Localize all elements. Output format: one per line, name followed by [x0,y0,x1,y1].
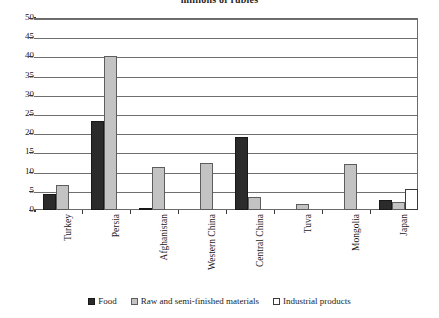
bar-group [178,18,226,210]
y-tick-mark [29,210,33,211]
bars-layer [34,18,418,210]
x-axis-labels: TurkeyPersiaAfghanistanWestern ChinaCent… [34,214,418,288]
y-axis: 50454035302520151050 [0,18,34,210]
x-axis-label-western-china: Western China [207,214,217,270]
bar-group [130,18,178,210]
bar-raw [152,167,165,210]
bar-industrial [405,189,418,210]
legend-item: Industrial products [273,296,351,307]
bar-raw [344,164,357,210]
legend: FoodRaw and semi-finished materialsIndus… [0,296,439,307]
x-axis-label-central-china: Central China [255,214,265,267]
y-tick-mark [29,133,33,134]
bar-food [235,137,248,210]
bar-raw [56,185,69,210]
y-tick-mark [29,114,33,115]
legend-label: Raw and semi-finished materials [141,296,259,307]
bar-group [370,18,418,210]
legend-swatch-raw [131,298,138,305]
bar-raw [392,202,405,210]
x-axis-label-tuva: Tuva [303,214,313,233]
y-tick-mark [29,95,33,96]
bar-chart: millions of rubles 50454035302520151050 … [0,0,439,318]
legend-swatch-industrial [273,298,280,305]
x-axis-label-turkey: Turkey [63,214,73,241]
bar-food [43,194,56,210]
legend-item: Food [88,296,117,307]
bar-group [274,18,322,210]
y-tick-mark [29,18,33,19]
bar-group [322,18,370,210]
y-tick-mark [29,152,33,153]
chart-title: millions of rubles [0,0,439,5]
bar-group [82,18,130,210]
legend-label: Food [98,296,117,307]
bar-raw [104,56,117,210]
bar-group [34,18,82,210]
x-axis-label-persia: Persia [111,214,121,237]
bar-raw [248,197,261,210]
bar-food [91,121,104,210]
legend-label: Industrial products [283,296,351,307]
y-tick-mark [29,56,33,57]
y-tick-mark [29,37,33,38]
x-axis-label-mongolia: Mongolia [351,214,361,251]
y-tick-mark [29,76,33,77]
legend-swatch-food [88,298,95,305]
bar-group [226,18,274,210]
bar-food [379,200,392,210]
x-axis-label-japan: Japan [399,214,409,236]
y-tick-mark [29,172,33,173]
x-axis-label-afghanistan: Afghanistan [159,214,169,260]
legend-item: Raw and semi-finished materials [131,296,259,307]
y-tick-mark [29,191,33,192]
bar-raw [200,163,213,210]
